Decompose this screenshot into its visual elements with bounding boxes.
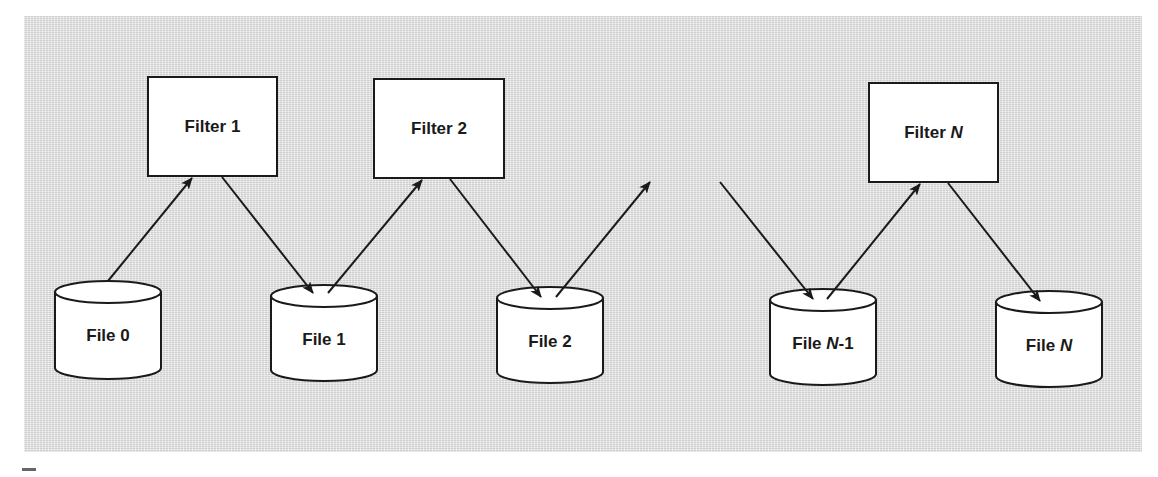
arrow-file1-to-filter2	[328, 180, 422, 293]
arrow-filter1-to-file1	[222, 177, 313, 293]
file-n-minus-1-label: File N-1	[770, 326, 876, 362]
arrow-filen-1-to-filtern	[827, 184, 920, 299]
arrow-file0-to-filter1	[108, 178, 192, 281]
arrow-file2-to-ellipsis	[556, 182, 650, 297]
filter-n-box: Filter N	[868, 82, 999, 183]
file-2-label: File 2	[497, 324, 603, 360]
arrow-ellipsis-to-filen-1	[720, 182, 813, 299]
file-n-label: File N	[996, 328, 1102, 364]
pipeline-diagram	[0, 0, 1158, 477]
filter-1-label: Filter 1	[185, 117, 241, 137]
filter-2-label: Filter 2	[411, 119, 467, 139]
filter-n-label: Filter N	[904, 123, 963, 143]
cropped-caption-glyph	[22, 468, 36, 471]
arrow-filtern-to-filen	[948, 183, 1040, 301]
file-0-label: File 0	[55, 318, 161, 354]
filter-2-box: Filter 2	[373, 78, 505, 179]
filter-1-box: Filter 1	[147, 76, 278, 177]
file-1-label: File 1	[271, 322, 377, 358]
arrow-filter2-to-file2	[450, 179, 541, 297]
